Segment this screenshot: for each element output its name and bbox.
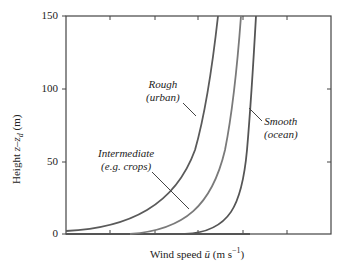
annotation-intermediate: Intermediate (e.g. crops)	[98, 147, 154, 173]
y-axis-label-var: z–z	[10, 137, 22, 151]
annotation-smooth-line2: (ocean)	[264, 128, 298, 141]
curve-rough-urban	[66, 16, 218, 231]
x-axis-label: Wind speed ū (m s−1)	[150, 246, 244, 260]
leader-rough	[183, 103, 196, 116]
y-axis-label-units: (m)	[10, 115, 22, 134]
y-tick-label-100: 100	[28, 82, 58, 94]
x-axis-label-units: (m s	[210, 248, 232, 260]
y-axis-label-sub: d	[16, 133, 25, 137]
annotation-smooth-line1: Smooth	[264, 115, 298, 128]
x-axis-label-close: )	[241, 248, 245, 260]
y-axis-label: Height z–zd (m)	[10, 115, 25, 184]
curve-smooth-ocean	[185, 16, 256, 234]
annotation-rough-line2: (urban)	[146, 91, 180, 104]
curve-intermediate-crops	[130, 16, 241, 234]
x-axis-ticks	[110, 16, 287, 234]
leader-smooth	[249, 108, 262, 121]
annotation-intermediate-line1: Intermediate	[98, 147, 154, 160]
y-tick-label-0: 0	[28, 227, 58, 239]
x-axis-label-main: Wind speed	[150, 248, 205, 260]
annotation-intermediate-line2: (e.g. crops)	[98, 160, 154, 173]
y-axis-label-main: Height	[10, 151, 22, 184]
annotation-smooth: Smooth (ocean)	[264, 115, 298, 141]
annotation-rough-line1: Rough	[146, 78, 180, 91]
x-axis-label-exp: −1	[232, 246, 241, 255]
annotation-rough: Rough (urban)	[146, 78, 180, 104]
y-tick-label-50: 50	[28, 155, 58, 167]
y-tick-label-150: 150	[28, 9, 58, 21]
